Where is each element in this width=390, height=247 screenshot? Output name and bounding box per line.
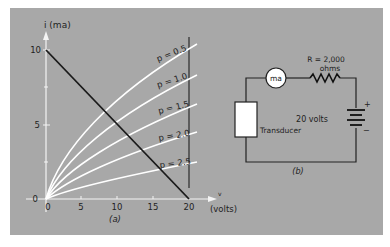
y-tick-5: 5 bbox=[35, 120, 40, 130]
y-axis-label: i (ma) bbox=[44, 20, 71, 30]
x-axis-symbol: v bbox=[218, 190, 222, 197]
y-axis-arrow-icon bbox=[43, 31, 49, 40]
resistor-label: R = 2,000 bbox=[307, 55, 345, 64]
meter-label: ma bbox=[270, 74, 282, 83]
curve-label-p-2-0: p = 2.0 bbox=[158, 128, 191, 143]
curve-p-0-5 bbox=[46, 44, 197, 199]
transducer-box bbox=[235, 102, 257, 137]
x-tick-15: 15 bbox=[148, 202, 159, 212]
load-line bbox=[46, 50, 189, 199]
y-tick-0: 0 bbox=[33, 194, 38, 204]
caption-a: (a) bbox=[109, 214, 121, 224]
figure-svg: p = 0.5 p = 1.0 p = 1.5 p = 2.0 p = 2.5 … bbox=[0, 0, 390, 247]
x-axis-label: (volts) bbox=[210, 204, 237, 214]
x-tick-0: 0 bbox=[45, 202, 50, 212]
battery-icon bbox=[347, 110, 365, 125]
x-tick-5: 5 bbox=[78, 202, 83, 212]
caption-b: (b) bbox=[292, 167, 303, 176]
x-axis-arrow-icon bbox=[208, 196, 217, 202]
graph-a: p = 0.5 p = 1.0 p = 1.5 p = 2.0 p = 2.5 … bbox=[26, 20, 237, 224]
transducer-label: Transducer bbox=[259, 126, 302, 135]
resistor-icon bbox=[310, 74, 340, 82]
battery-label: 20 volts bbox=[296, 115, 328, 124]
resistor-unit-label: ohms bbox=[320, 64, 341, 73]
x-tick-10: 10 bbox=[112, 202, 123, 212]
curve-label-p-2-5: p = 2.5 bbox=[159, 156, 191, 170]
battery-minus: − bbox=[363, 126, 370, 135]
y-tick-10: 10 bbox=[30, 45, 41, 55]
circuit-b: ma R = 2,000 ohms + − 20 volts Transduce… bbox=[235, 55, 371, 176]
x-tick-20: 20 bbox=[184, 202, 195, 212]
battery-plus: + bbox=[364, 100, 371, 109]
